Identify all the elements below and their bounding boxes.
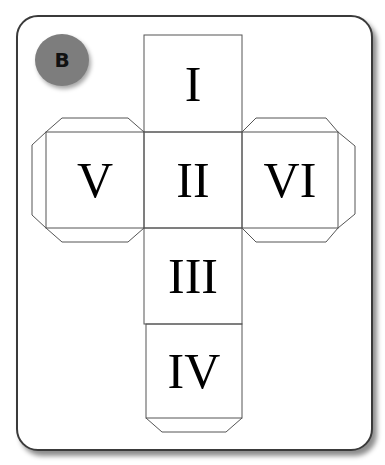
face-bottom: IV [146,324,242,418]
face-right: VI [242,132,338,228]
face-left: V [46,132,144,228]
face-lower: III [144,228,242,324]
face-top: I [144,35,242,132]
face-center: II [144,132,242,228]
